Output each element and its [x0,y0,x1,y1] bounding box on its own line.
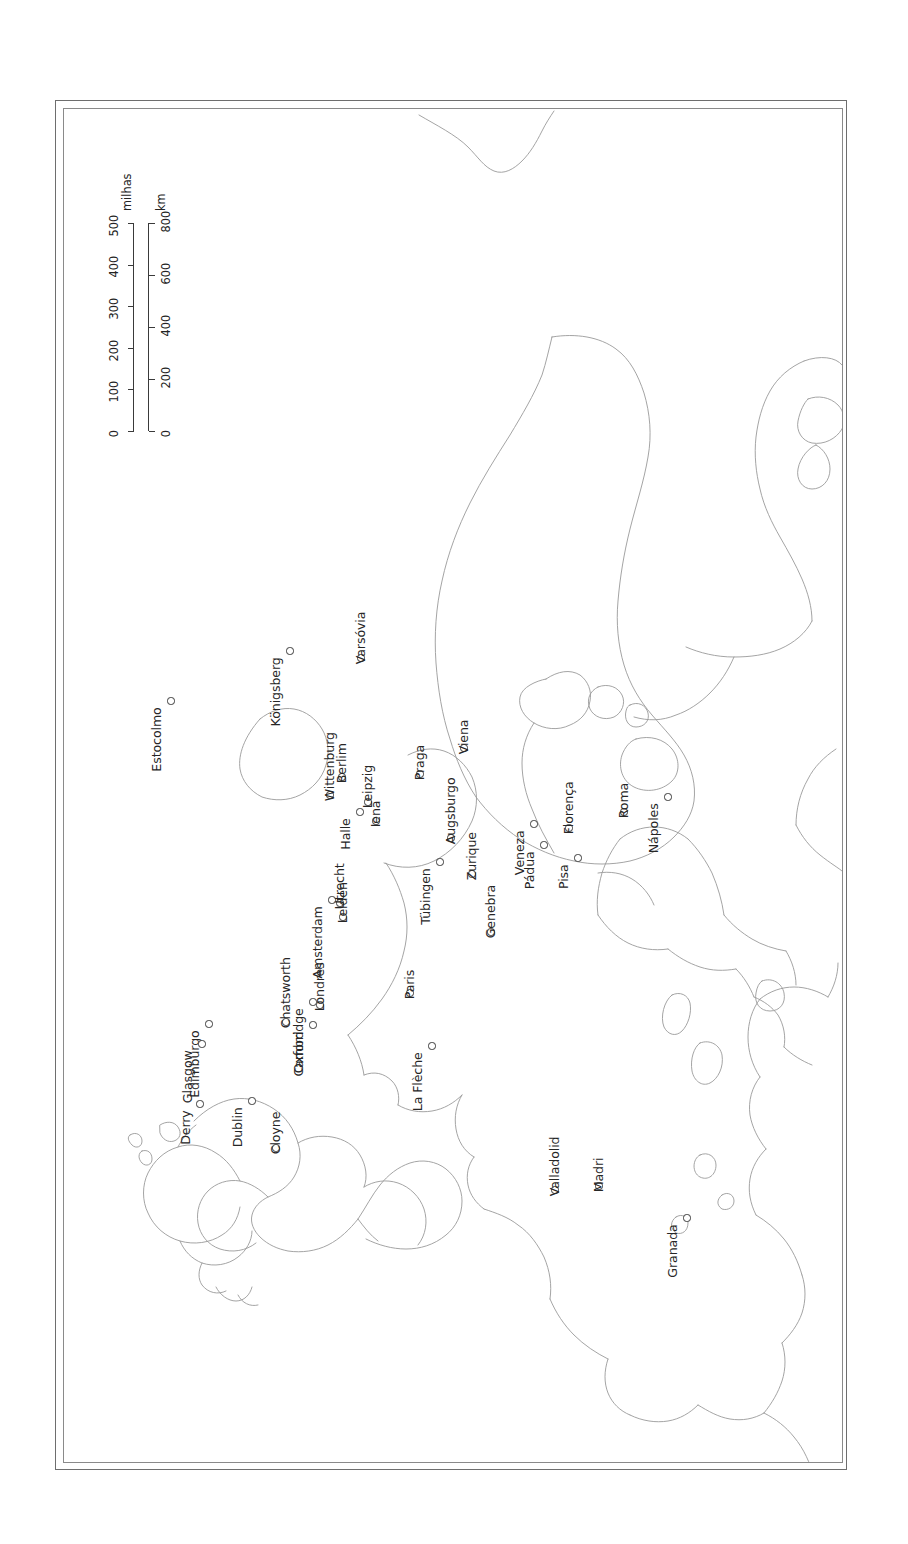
city-dot-icon [530,820,537,827]
city-dot-icon [309,998,316,1005]
map-page: 0 100 200 300 400 500 0 200 400 600 800 … [0,0,908,1544]
scale-unit-miles: milhas [122,173,133,211]
scale-km-label: 400 [161,313,172,339]
city-label: Iena [370,801,383,828]
scale-km-label: 600 [161,261,172,287]
city-dot-icon [196,1100,203,1107]
scale-km-tick [149,431,155,432]
city-label: Varsóvia [355,612,368,665]
city-dot-icon [428,1042,435,1049]
city-label: Halle [340,818,353,849]
city-label: Estocolmo [151,707,164,771]
scale-km-label: 200 [161,365,172,391]
scale-miles-label: 0 [109,423,120,445]
city-label: Nápoles [648,803,661,853]
scale-km-tick [149,327,155,328]
scale-miles-tick [128,348,134,349]
city-dot-icon [574,854,581,861]
scale-km-tick [149,379,155,380]
city-label: Valladolid [549,1137,562,1197]
city-label: Derry [180,1110,193,1145]
city-label: Paris [404,970,417,999]
city-label: Glasgow [182,1050,195,1103]
scale-miles-tick [128,389,134,390]
city-label: Pádua [524,851,537,889]
scale-km-label: 800 [161,209,172,235]
scale-miles-label: 200 [109,338,120,364]
city-label: Leiden [337,882,350,923]
city-label: Dublin [232,1107,245,1147]
city-label: Roma [618,783,631,818]
city-dot-icon [309,1021,316,1028]
scale-miles-tick [128,431,134,432]
city-label: Pisa [558,864,571,889]
city-label: Viena [458,720,471,755]
scale-miles-label: 500 [109,213,120,239]
scale-km-tick [149,223,155,224]
scale-miles-label: 300 [109,296,120,322]
scale-bar: 0 100 200 300 400 500 0 200 400 600 800 … [100,175,190,450]
city-dot-icon [248,1097,255,1104]
city-label: Genebra [485,885,498,938]
city-label: Madri [593,1158,606,1193]
city-label: Cloyne [270,1112,283,1155]
city-dot-icon [683,1214,690,1221]
city-label: Zurique [466,832,479,880]
scale-unit-km: km [156,193,167,211]
city-label: Chatsworth [280,957,293,1028]
scale-miles-tick [128,265,134,266]
city-dot-icon [664,793,671,800]
scale-miles-label: 100 [109,379,120,405]
city-label: La Flèche [412,1052,425,1111]
city-dot-icon [286,647,293,654]
scale-km-label: 0 [161,423,172,445]
city-label: Tübingen [420,868,433,924]
scale-miles-tick [128,306,134,307]
city-dot-icon [436,858,443,865]
scale-miles-label: 400 [109,254,120,280]
city-label: Augsburgo [445,777,458,844]
scale-miles-spine [133,223,134,431]
city-label: Florença [563,781,576,834]
city-dot-icon [205,1020,212,1027]
scale-km-tick [149,275,155,276]
city-label: Berlim [336,743,349,783]
city-dot-icon [356,808,363,815]
scale-miles-tick [128,223,134,224]
city-label: Praga [414,745,427,780]
city-dot-icon [540,841,547,848]
city-dot-icon [198,1040,205,1047]
city-label: Granada [667,1224,680,1277]
city-label: Cambridge [293,1008,306,1076]
city-label: Königsberg [270,657,283,726]
city-dot-icon [167,697,174,704]
